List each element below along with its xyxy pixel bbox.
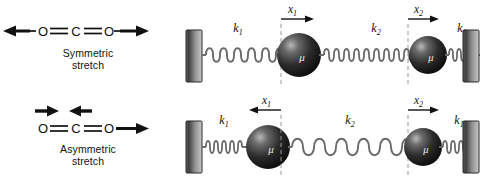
mass-2-label: μ <box>427 52 433 63</box>
double-bond-left <box>50 29 68 34</box>
mass-1-label: μ <box>298 51 305 63</box>
spring-mass-asymmetric: k1 μ x1 k2 x2 <box>180 93 485 186</box>
spring-label-k2: k2 <box>345 113 354 129</box>
panel-symmetric: O C O Symmetric stretch <box>0 0 485 93</box>
double-bond-left <box>50 126 68 131</box>
caption-asymmetric: Asymmetric stretch <box>28 143 148 167</box>
atom-oxygen-right: O <box>104 24 114 39</box>
atom-oxygen-left: O <box>38 121 48 136</box>
displacement-arrow-x1 <box>249 107 281 114</box>
atom-carbon: C <box>71 24 80 39</box>
spring-k1-left <box>202 48 283 62</box>
symmetric-right-arrow <box>120 26 149 37</box>
molecule-asymmetric: O C O <box>0 101 180 141</box>
double-bond-right <box>84 126 102 131</box>
wall-left <box>186 121 202 173</box>
spring-label-k1-left: k1 <box>233 21 242 37</box>
wall-right <box>463 121 479 173</box>
displacement-label-x2: x2 <box>413 3 423 18</box>
double-bond-right <box>84 29 102 34</box>
caption-symmetric: Symmetric stretch <box>28 47 148 71</box>
caption-line-2: stretch <box>28 155 148 167</box>
asym-carbon-arrow <box>69 106 92 117</box>
displacement-label-x1: x1 <box>261 94 271 109</box>
molecule-symmetric: O C O <box>0 18 180 44</box>
displacement-arrow-x1 <box>281 16 314 23</box>
caption-line-1: Asymmetric <box>28 143 148 155</box>
spring-mass-symmetric: k1 x1 μ k2 x2 <box>180 0 485 93</box>
caption-line-1: Symmetric <box>28 47 148 59</box>
caption-line-2: stretch <box>28 59 148 71</box>
mass-1-label: μ <box>267 143 274 155</box>
wall-right <box>463 30 479 82</box>
figure-co2-normal-modes: O C O Symmetric stretch <box>0 0 485 186</box>
spring-label-k1-right: k1 <box>454 113 463 129</box>
mass-2-label: μ <box>422 144 428 155</box>
atom-carbon: C <box>71 121 80 136</box>
displacement-arrow-x2 <box>408 16 439 23</box>
atom-oxygen-right: O <box>104 121 114 136</box>
spring-k1-left <box>202 141 246 153</box>
spring-k2 <box>288 139 419 156</box>
asym-oxygen-arrow <box>35 106 59 117</box>
atom-oxygen-left: O <box>38 24 48 39</box>
displacement-label-x2: x2 <box>413 94 423 109</box>
panel-asymmetric: O C O Asymmetric stretch <box>0 93 485 186</box>
wall-left <box>186 30 202 82</box>
displacement-arrow-x2 <box>408 107 439 114</box>
asym-right-arrow <box>116 123 149 134</box>
spring-label-k2: k2 <box>371 21 380 37</box>
displacement-label-x1: x1 <box>287 3 297 18</box>
spring-label-k1-left: k1 <box>219 113 228 129</box>
symmetric-left-arrow <box>3 26 30 37</box>
